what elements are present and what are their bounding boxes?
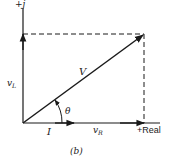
imaginary-axis-label: +j <box>15 0 25 9</box>
resultant-label-v: V <box>79 67 86 77</box>
vl-label: vL <box>7 79 16 90</box>
vr-subscript: R <box>98 129 103 136</box>
phasor-diagram <box>0 0 171 163</box>
theta-label: θ <box>65 107 70 116</box>
vr-label: vR <box>93 126 103 137</box>
theta-angle-arc <box>55 100 62 123</box>
current-label-i: I <box>47 127 51 137</box>
resultant-phasor-v <box>23 35 143 123</box>
real-axis-label: +Real <box>137 126 161 135</box>
vl-subscript: L <box>12 82 16 89</box>
figure-caption: (b) <box>70 147 83 156</box>
